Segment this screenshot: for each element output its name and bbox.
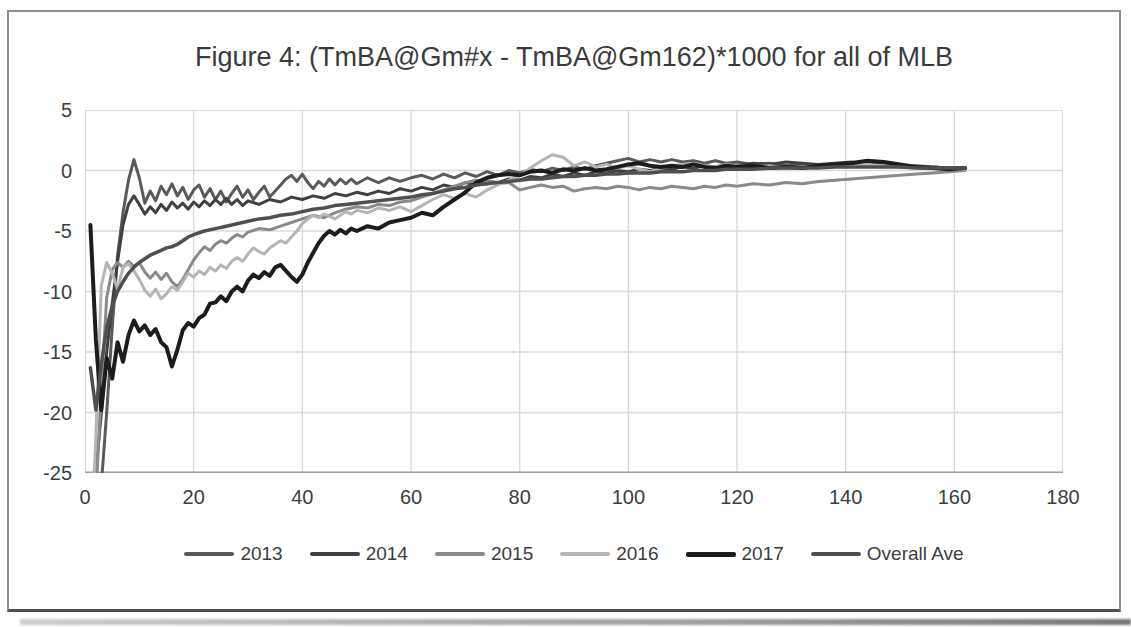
- legend-swatch-2013: [184, 552, 234, 556]
- chart-title: Figure 4: (TmBA@Gm#x - TmBA@Gm162)*1000 …: [85, 42, 1063, 73]
- y-tick-label: -20: [0, 403, 72, 423]
- line-chart: [85, 110, 1063, 473]
- chart-page: Figure 4: (TmBA@Gm#x - TmBA@Gm162)*1000 …: [0, 0, 1131, 627]
- legend-label: Overall Ave: [867, 543, 964, 565]
- y-tick-label: -10: [0, 282, 72, 302]
- x-tick-label: 60: [376, 487, 446, 507]
- legend-item-2016: 2016: [560, 543, 658, 565]
- legend-swatch-2017: [686, 552, 736, 557]
- legend-item-2014: 2014: [310, 543, 408, 565]
- x-tick-label: 180: [1028, 487, 1098, 507]
- x-tick-label: 40: [267, 487, 337, 507]
- series-line-2017: [90, 161, 965, 410]
- legend-swatch-2016: [560, 552, 610, 556]
- legend-item-2017: 2017: [686, 543, 784, 565]
- legend-label: 2016: [616, 543, 658, 565]
- legend-label: 2014: [366, 543, 408, 565]
- x-tick-label: 160: [919, 487, 989, 507]
- x-tick-label: 20: [159, 487, 229, 507]
- legend-label: 2013: [240, 543, 282, 565]
- series-line-2015: [90, 171, 965, 474]
- x-tick-label: 100: [593, 487, 663, 507]
- legend-item-2013: 2013: [184, 543, 282, 565]
- scan-artifact: [20, 619, 1131, 625]
- series-line-2014: [90, 162, 965, 473]
- x-tick-label: 140: [811, 487, 881, 507]
- legend-label: 2015: [491, 543, 533, 565]
- chart-legend: 20132014201520162017Overall Ave: [85, 543, 1063, 565]
- legend-label: 2017: [742, 543, 784, 565]
- y-tick-label: -15: [0, 342, 72, 362]
- x-tick-label: 0: [50, 487, 120, 507]
- y-tick-label: 0: [0, 161, 72, 181]
- legend-swatch-2015: [435, 552, 485, 556]
- legend-item-overall-ave: Overall Ave: [811, 543, 964, 565]
- legend-item-2015: 2015: [435, 543, 533, 565]
- x-tick-label: 80: [485, 487, 555, 507]
- x-tick-label: 120: [702, 487, 772, 507]
- y-tick-label: 5: [0, 100, 72, 120]
- y-tick-label: -5: [0, 221, 72, 241]
- legend-swatch-2014: [310, 552, 360, 556]
- legend-swatch-overall-ave: [811, 552, 861, 557]
- plot-area: [85, 110, 1063, 473]
- y-tick-label: -25: [0, 463, 72, 483]
